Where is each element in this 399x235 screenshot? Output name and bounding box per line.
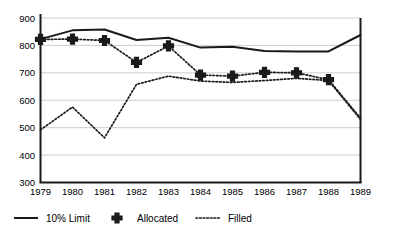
y-tick-label: 700 bbox=[19, 67, 35, 78]
x-tick-label: 1981 bbox=[94, 186, 115, 197]
y-tick-label: 400 bbox=[19, 150, 35, 161]
x-tick-label: 1980 bbox=[62, 186, 83, 197]
x-tick-label: 1982 bbox=[126, 186, 147, 197]
y-axis-tick-labels: 300400500600700800900 bbox=[19, 13, 35, 189]
x-tick-label: 1987 bbox=[286, 186, 307, 197]
x-tick-label: 1985 bbox=[222, 186, 243, 197]
chart-container: 300400500600700800900 197919801981198219… bbox=[0, 0, 399, 235]
legend-label-allocated: Allocated bbox=[137, 213, 178, 224]
x-tick-label: 1983 bbox=[158, 186, 179, 197]
x-tick-label: 1979 bbox=[30, 186, 51, 197]
chart-legend: 10% LimitAllocatedFilled bbox=[14, 213, 252, 224]
x-tick-label: 1988 bbox=[318, 186, 339, 197]
y-tick-label: 600 bbox=[19, 95, 35, 106]
x-tick-label: 1984 bbox=[190, 186, 211, 197]
legend-label-10-limit: 10% Limit bbox=[46, 213, 90, 224]
y-tick-label: 900 bbox=[19, 13, 35, 24]
y-tick-label: 500 bbox=[19, 122, 35, 133]
x-tick-label: 1989 bbox=[350, 186, 371, 197]
x-axis-tick-labels: 1979198019811982198319841985198619871988… bbox=[30, 186, 371, 197]
legend-label-filled: Filled bbox=[228, 213, 252, 224]
y-tick-label: 800 bbox=[19, 40, 35, 51]
x-tick-label: 1986 bbox=[254, 186, 275, 197]
line-chart: 300400500600700800900 197919801981198219… bbox=[0, 0, 399, 235]
legend-swatch-plus-marker bbox=[112, 213, 122, 223]
